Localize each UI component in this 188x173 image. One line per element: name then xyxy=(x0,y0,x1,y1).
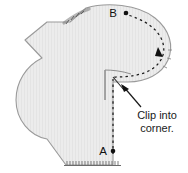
raw-edge-bottom xyxy=(64,161,121,166)
clip-into-corner-sewing-diagram: B A Clip into corner. xyxy=(0,0,188,173)
point-b-label: B xyxy=(109,7,117,19)
fabric-piece xyxy=(16,5,171,165)
diagram-canvas: B A Clip into corner. xyxy=(0,0,188,173)
callout-text-line2: corner. xyxy=(140,122,174,134)
point-a-marker xyxy=(111,149,116,154)
point-a-label: A xyxy=(99,145,107,157)
callout-arrow-icon xyxy=(121,84,141,107)
fabric-shape xyxy=(16,5,171,165)
callout-text-line1: Clip into xyxy=(137,109,177,121)
point-b-marker xyxy=(124,11,129,16)
